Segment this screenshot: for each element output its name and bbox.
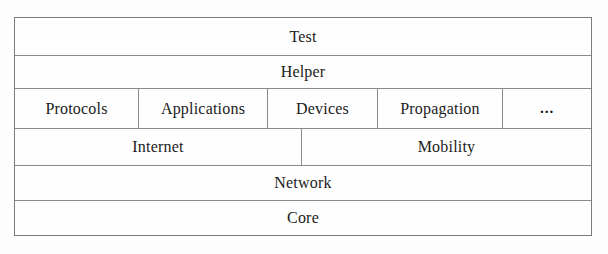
layer-label-protocols: Protocols: [45, 101, 107, 117]
layer-row-helper: Helper: [15, 56, 591, 89]
layer-cell-helper: Helper: [15, 56, 591, 88]
layer-label-test: Test: [289, 29, 316, 45]
layer-cell-network: Network: [15, 166, 591, 200]
layer-cell-core: Core: [15, 201, 591, 235]
layer-label-applications: Applications: [161, 101, 245, 117]
layer-cell-internet: Internet: [15, 129, 302, 165]
layer-label-more: ...: [540, 101, 554, 116]
layer-cell-devices: Devices: [268, 89, 378, 128]
layer-label-propagation: Propagation: [400, 101, 480, 117]
layer-label-core: Core: [287, 210, 319, 226]
layer-label-helper: Helper: [281, 64, 326, 80]
layer-cell-applications: Applications: [139, 89, 268, 128]
layer-label-mobility: Mobility: [418, 139, 476, 155]
layer-cell-mobility: Mobility: [302, 129, 591, 165]
layered-architecture-diagram: Test Helper Protocols Applications Devic…: [14, 17, 592, 236]
layer-cell-more: ...: [503, 89, 591, 128]
layer-cell-propagation: Propagation: [378, 89, 503, 128]
layer-row-core: Core: [15, 201, 591, 235]
diagram-page: Test Helper Protocols Applications Devic…: [0, 0, 608, 254]
layer-label-network: Network: [274, 175, 331, 191]
layer-row-network: Network: [15, 166, 591, 201]
layer-cell-test: Test: [15, 18, 591, 55]
layer-row-internet-mobility: Internet Mobility: [15, 129, 591, 166]
layer-label-devices: Devices: [296, 101, 349, 117]
layer-cell-protocols: Protocols: [15, 89, 139, 128]
layer-label-internet: Internet: [132, 139, 183, 155]
layer-row-test: Test: [15, 18, 591, 56]
layer-row-modules: Protocols Applications Devices Propagati…: [15, 89, 591, 129]
